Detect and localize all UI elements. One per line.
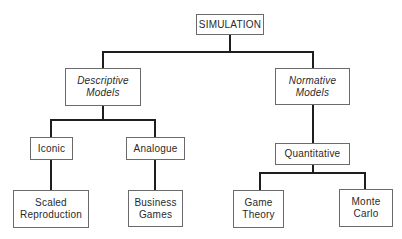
connector-normative-to-quantitative xyxy=(312,104,314,144)
node-scaled-reproduction: Scaled Reproduction xyxy=(13,190,89,228)
node-analogue: Analogue xyxy=(126,137,185,160)
node-normative-models: Normative Models xyxy=(275,68,350,105)
node-analogue-label: Analogue xyxy=(134,143,178,155)
node-quantitative: Quantitative xyxy=(275,143,350,165)
connector-descriptive-down xyxy=(102,105,104,120)
connector-to-analogue xyxy=(154,119,156,138)
node-iconic-label: Iconic xyxy=(38,143,65,155)
connector-level1-horizontal xyxy=(102,51,314,53)
node-business-line2: Games xyxy=(134,209,176,221)
connector-to-descriptive xyxy=(102,51,104,69)
node-descriptive-line2: Models xyxy=(77,87,129,99)
node-monte-carlo: Monte Carlo xyxy=(339,189,393,227)
connector-quantitative-horizontal xyxy=(259,172,366,174)
node-business-games: Business Games xyxy=(128,190,183,227)
node-descriptive-line1: Descriptive xyxy=(77,75,129,87)
node-game-line1: Game xyxy=(242,197,274,209)
node-normative-line2: Models xyxy=(289,87,336,99)
node-scaled-line2: Reproduction xyxy=(20,209,82,221)
connector-iconic-to-scaled xyxy=(50,159,52,191)
node-simulation-label: SIMULATION xyxy=(199,19,261,31)
node-normative-line1: Normative xyxy=(289,75,336,87)
node-monte-line2: Carlo xyxy=(352,208,381,220)
node-game-theory: Game Theory xyxy=(233,190,284,228)
connector-to-iconic xyxy=(50,119,52,138)
node-game-line2: Theory xyxy=(242,209,274,221)
node-iconic: Iconic xyxy=(30,137,73,160)
node-simulation: SIMULATION xyxy=(196,14,264,35)
connector-descriptive-horizontal xyxy=(50,119,156,121)
node-scaled-line1: Scaled xyxy=(20,197,82,209)
node-business-line1: Business xyxy=(134,197,176,209)
node-quantitative-label: Quantitative xyxy=(285,148,341,160)
connector-analogue-to-business xyxy=(154,159,156,191)
connector-to-monte-carlo xyxy=(364,172,366,190)
connector-to-normative xyxy=(312,51,314,69)
connector-to-game-theory xyxy=(259,172,261,191)
node-monte-line1: Monte xyxy=(352,196,381,208)
node-descriptive-models: Descriptive Models xyxy=(65,68,141,106)
